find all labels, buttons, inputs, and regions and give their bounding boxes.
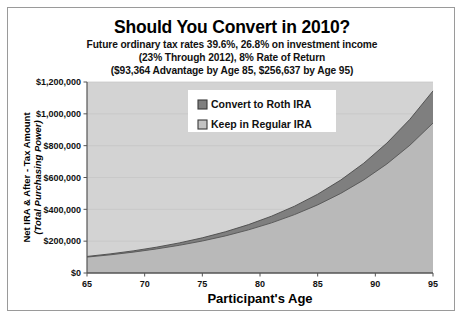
legend-label: Convert to Roth IRA	[211, 98, 312, 110]
legend-swatch	[198, 100, 207, 109]
y-axis-title-line2: (Total Purchasing Power)	[32, 120, 43, 234]
y-axis-tick-label: $1,000,000	[36, 109, 81, 119]
x-axis-tick-label: 95	[428, 279, 438, 289]
chart-frame: Should You Convert in 2010? Future ordin…	[7, 7, 455, 311]
y-axis-tick-label: $1,200,000	[36, 77, 81, 87]
x-axis-tick-label: 75	[197, 279, 207, 289]
legend-swatch	[198, 120, 207, 129]
legend-label: Keep in Regular IRA	[211, 118, 312, 130]
y-axis-tick-label: $200,000	[43, 236, 81, 246]
area-chart-svg: $0$200,000$400,000$600,000$800,000$1,000…	[8, 8, 456, 312]
y-axis-tick-label: $600,000	[43, 173, 81, 183]
chart-plot-wrapper: $0$200,000$400,000$600,000$800,000$1,000…	[8, 8, 456, 312]
y-axis-title-line1: Net IRA & After - Tax Amount	[21, 112, 32, 243]
x-axis-title: Participant's Age	[207, 291, 312, 306]
x-axis-tick-label: 90	[370, 279, 380, 289]
y-axis-tick-label: $800,000	[43, 141, 81, 151]
x-axis-tick-label: 80	[255, 279, 265, 289]
y-axis-tick-label: $400,000	[43, 205, 81, 215]
x-axis-tick-label: 65	[82, 279, 92, 289]
x-axis-tick-label: 70	[140, 279, 150, 289]
y-axis-tick-label: $0	[71, 268, 81, 278]
x-axis-tick-label: 85	[313, 279, 323, 289]
